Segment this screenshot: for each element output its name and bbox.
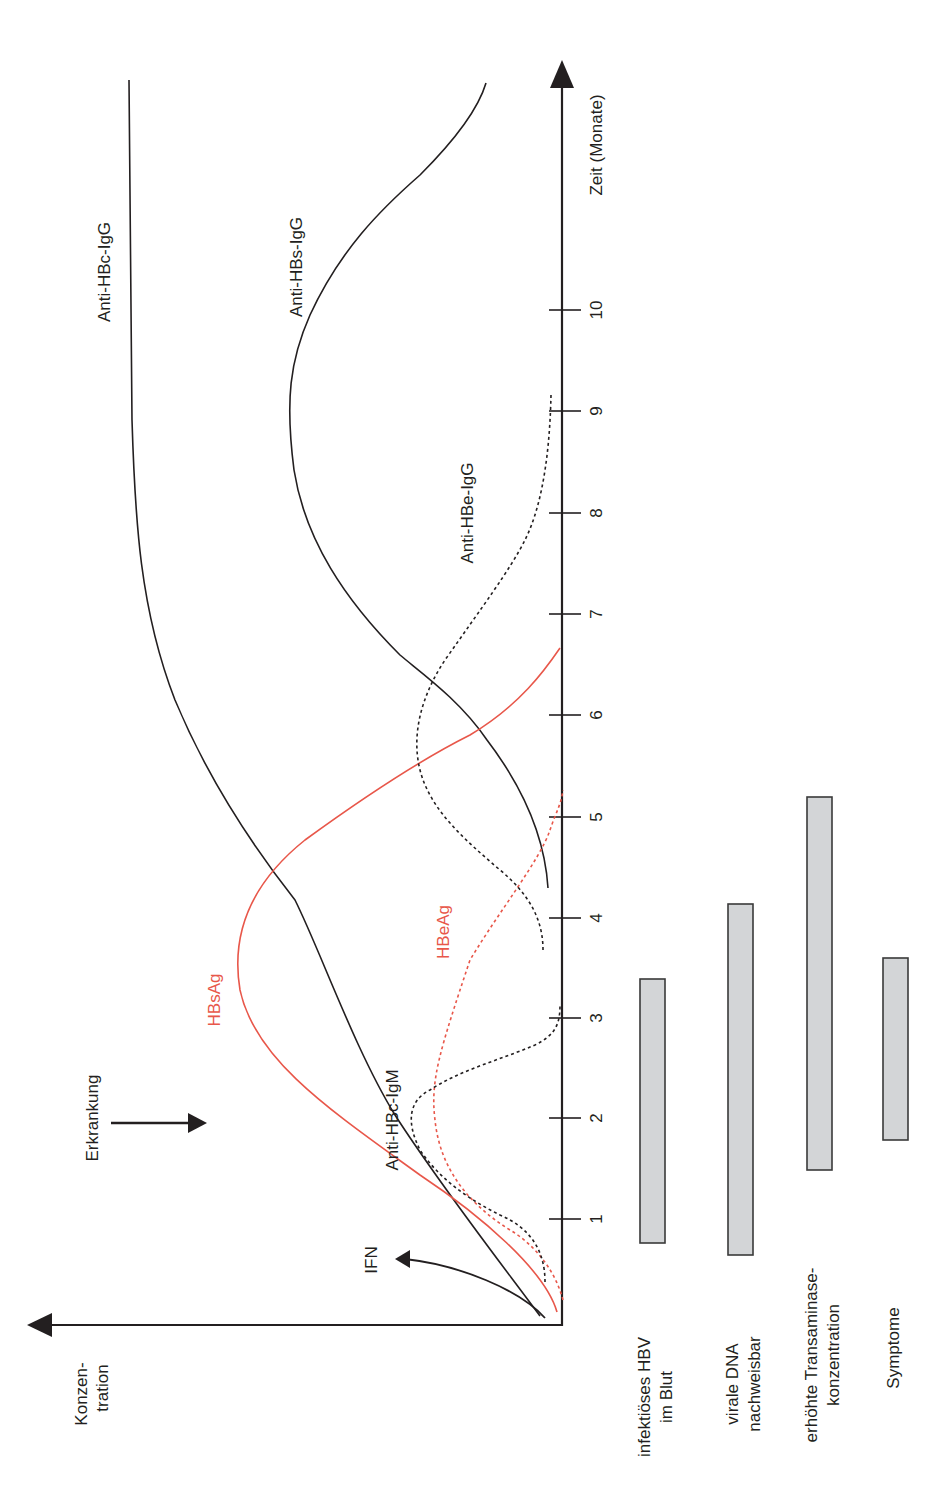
time-axis-label: Zeit (Monate)	[587, 94, 606, 195]
bar4-label-line1: Symptome	[884, 1307, 903, 1388]
bar-labels: infektiöses HBV im Blut virale DNA nachw…	[635, 1268, 903, 1457]
tick-label-8: 8	[587, 508, 606, 517]
ifn-arrow-head-icon	[395, 1250, 410, 1268]
bar2-label-line2: nachweisbar	[745, 1336, 764, 1432]
time-tick-labels: 1 2 3 4 5 6 7 8 9 10 Zeit (Monate)	[587, 94, 606, 1223]
ifn-label: IFN	[362, 1246, 381, 1273]
bar-symptome	[883, 958, 908, 1140]
tick-label-5: 5	[587, 812, 606, 821]
bar-infektioeses-hbv	[640, 979, 665, 1243]
svg-text:Konzen-: Konzen-	[72, 1362, 91, 1425]
bar3-label-line2: konzentration	[824, 1304, 843, 1406]
label-anti-hbs-igg: Anti-HBs-IgG	[287, 217, 306, 317]
time-axis-arrow-icon	[550, 60, 574, 88]
tick-label-2: 2	[587, 1113, 606, 1122]
svg-text:tration: tration	[93, 1364, 112, 1411]
label-hbsag: HBsAg	[205, 974, 224, 1027]
bar-transaminase	[807, 797, 832, 1170]
bar2-label-line1: virale DNA	[723, 1343, 742, 1425]
label-anti-hbc-igm: Anti-HBc-IgM	[383, 1069, 402, 1170]
series-anti-hbc-igm	[411, 1005, 560, 1282]
tick-label-10: 10	[587, 301, 606, 320]
erkrankung-annotation: Erkrankung	[83, 1075, 207, 1162]
hbv-timeline-chart: 1 2 3 4 5 6 7 8 9 10 Zeit (Monate) Konze…	[0, 0, 932, 1507]
concentration-axis-label: Konzen- tration	[72, 1362, 112, 1425]
label-hbeag: HBeAg	[434, 905, 453, 959]
series-hbsag	[238, 648, 560, 1312]
tick-label-9: 9	[587, 406, 606, 415]
bar3-label-line1: erhöhte Transaminase-	[802, 1268, 821, 1443]
time-ticks	[549, 310, 581, 1219]
tick-label-1: 1	[587, 1214, 606, 1223]
label-anti-hbc-igg: Anti-HBc-IgG	[95, 222, 114, 322]
bar1-label-line1: infektiöses HBV	[635, 1336, 654, 1457]
label-anti-hbe-igg: Anti-HBe-IgG	[458, 462, 477, 563]
ifn-annotation: IFN	[362, 1246, 545, 1318]
curves	[129, 80, 563, 1316]
tick-label-3: 3	[587, 1013, 606, 1022]
erkrankung-arrow-head-icon	[188, 1113, 207, 1133]
concentration-axis-arrow-icon	[27, 1313, 52, 1337]
ifn-arrow-line	[405, 1259, 545, 1318]
bar1-label-line2: im Blut	[657, 1371, 676, 1423]
duration-bars	[640, 797, 908, 1255]
series-anti-hbs-igg	[290, 83, 548, 888]
series-hbeag	[434, 790, 563, 1300]
erkrankung-label: Erkrankung	[83, 1075, 102, 1162]
tick-label-7: 7	[587, 609, 606, 618]
curve-labels: Anti-HBc-IgG Anti-HBs-IgG Anti-HBe-IgG A…	[95, 217, 477, 1171]
bar-virale-dna	[728, 904, 753, 1255]
tick-label-4: 4	[587, 913, 606, 922]
tick-label-6: 6	[587, 710, 606, 719]
